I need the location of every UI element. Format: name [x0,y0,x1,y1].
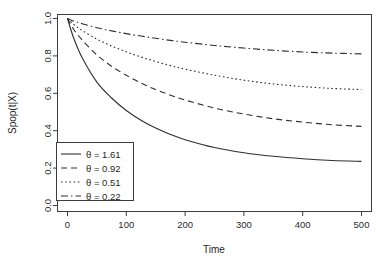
x-axis: 0 100 200 300 400 500 Time [58,212,372,256]
x-tick-label-0: 0 [65,219,70,230]
y-tick-label-0.8: 0.8 [42,49,53,62]
curve-theta-0.22 [68,19,362,54]
y-tick-label-0.0: 0.0 [42,199,53,212]
x-tick-label-500: 500 [354,219,370,230]
y-tick-label-0.2: 0.2 [42,161,53,174]
curve-theta-1.61 [68,19,362,162]
x-tick-label-300: 300 [236,219,252,230]
chart-svg: 1.0 0.8 0.6 0.4 0.2 0.0 Spop(t|X) 0 100 … [0,0,391,262]
curve-theta-0.92 [68,19,362,127]
x-axis-title: Time [203,244,225,255]
y-axis-title: Spop(t|X) [7,92,18,134]
x-tick-label-100: 100 [118,219,134,230]
curve-group [68,19,362,162]
y-tick-label-0.6: 0.6 [42,87,53,100]
x-tick-label-400: 400 [295,219,311,230]
y-tick-label-1.0: 1.0 [42,12,53,25]
legend-label-2: θ = 0.51 [86,177,121,188]
x-tick-label-200: 200 [177,219,193,230]
legend-label-1: θ = 0.92 [86,163,121,174]
y-tick-label-0.4: 0.4 [42,124,53,137]
legend: θ = 1.61 θ = 0.92 θ = 0.51 θ = 0.22 [57,143,134,202]
curve-theta-0.51 [68,19,362,90]
legend-label-3: θ = 0.22 [86,191,121,202]
chart-figure: 1.0 0.8 0.6 0.4 0.2 0.0 Spop(t|X) 0 100 … [0,0,391,262]
y-axis: 1.0 0.8 0.6 0.4 0.2 0.0 Spop(t|X) [7,12,58,212]
legend-label-0: θ = 1.61 [86,149,121,160]
